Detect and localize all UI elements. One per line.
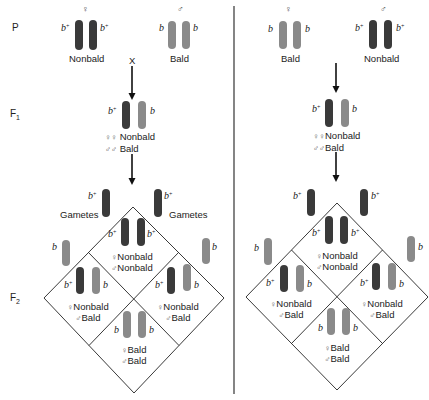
chromosome-dominant: [325, 99, 333, 127]
allele-label: b+: [312, 104, 320, 114]
allele-label: b+: [108, 229, 116, 239]
chromosome-recessive: [327, 308, 335, 335]
chromosome-recessive: [183, 264, 191, 291]
allele-label: b: [194, 280, 199, 290]
allele-label: b+: [100, 23, 108, 33]
allele-label: b: [254, 243, 259, 253]
allele-label: b: [150, 106, 155, 116]
allele-label: b: [305, 24, 310, 34]
allele-label: b: [353, 323, 358, 333]
generation-label-f2: F2: [10, 292, 20, 305]
allele-label: b+: [155, 280, 163, 290]
allele-label: b: [212, 242, 217, 252]
f2-cell-right-male: ♂Bald: [148, 312, 208, 324]
chromosome-dominant: [372, 263, 380, 290]
f2-cell-right-male: ♂Bald: [352, 309, 412, 321]
allele-label: b+: [360, 278, 368, 288]
allele-label: b+: [108, 106, 116, 116]
allele-label: b+: [351, 228, 359, 238]
allele-label: b+: [61, 23, 69, 33]
chromosome-dominant: [121, 218, 129, 246]
allele-label: b+: [147, 229, 155, 239]
f2-cell-bottom-male: ♂Bald: [104, 355, 164, 367]
f1-female-phenotype: ♀♀ Nonbald: [105, 131, 155, 143]
chromosome-dominant: [369, 20, 377, 49]
chromosome-recessive: [138, 311, 146, 338]
allele-label: b: [159, 23, 164, 33]
allele-label: b: [268, 24, 273, 34]
phenotype-label: Nonbald: [364, 53, 399, 64]
allele-label: b+: [312, 228, 320, 238]
allele-label: b+: [64, 280, 72, 290]
chromosome-recessive: [341, 99, 349, 127]
generation-label-p: P: [12, 22, 19, 33]
chromosome-recessive: [293, 21, 301, 49]
gamete-chromosome-recessive: [407, 236, 415, 262]
gamete-chromosome-recessive: [264, 238, 272, 265]
allele-label: b+: [88, 191, 96, 201]
female-symbol-icon: ♀: [285, 4, 292, 14]
phenotype-label: Nonbald: [69, 53, 104, 64]
allele-label: b+: [396, 23, 404, 33]
allele-label: b: [52, 242, 57, 252]
f1-female-phenotype: ♀♀Nonbald: [313, 130, 360, 142]
f2-cell-bottom-male: ♂Bald: [307, 353, 367, 365]
gamete-chromosome-dominant: [307, 189, 315, 216]
gamete-chromosome-dominant: [360, 189, 368, 216]
allele-label: b+: [293, 191, 301, 201]
chromosome-recessive: [296, 265, 304, 292]
chromosome-recessive: [388, 263, 396, 290]
male-symbol-icon: ♂: [177, 4, 184, 14]
allele-label: b: [318, 323, 323, 333]
chromosome-recessive: [182, 21, 190, 49]
chromosome-dominant: [76, 267, 84, 294]
chromosome-dominant: [340, 216, 348, 244]
f2-cell-left-male: ♂Bald: [58, 312, 118, 324]
generation-label-f1: F1: [10, 108, 20, 121]
f1-male-phenotype: ♂♂ Bald: [105, 143, 139, 155]
allele-label: b+: [266, 278, 274, 288]
chromosome-recessive: [138, 101, 146, 129]
chromosome-dominant: [137, 218, 145, 246]
f1-male-phenotype: ♂♂Bald: [313, 142, 344, 154]
f2-cell-top-male: ♂Nonbald: [102, 262, 162, 274]
chromosome-recessive: [279, 21, 287, 49]
f2-cell-left-male: ♂Bald: [261, 309, 321, 321]
phenotype-label: Bald: [281, 53, 300, 64]
chromosome-recessive: [168, 21, 176, 49]
allele-label: b: [193, 23, 198, 33]
chromosome-dominant: [280, 265, 288, 292]
chromosome-recessive: [123, 311, 131, 338]
cross-symbol: X: [129, 55, 135, 66]
allele-label: b+: [355, 23, 363, 33]
gametes-label: Gametes: [169, 209, 208, 220]
chromosome-dominant: [325, 216, 333, 244]
chromosome-dominant: [89, 20, 97, 50]
gamete-chromosome-dominant: [154, 189, 162, 217]
allele-label: b: [399, 279, 404, 289]
allele-label: b: [418, 242, 423, 252]
female-symbol-icon: ♀: [82, 4, 89, 14]
gametes-label: Gametes: [60, 209, 99, 220]
chromosome-recessive: [92, 267, 100, 294]
chromosome-dominant: [384, 20, 392, 49]
male-symbol-icon: ♂: [380, 4, 387, 14]
allele-label: b: [103, 280, 108, 290]
allele-label: b+: [371, 191, 379, 201]
allele-label: b: [149, 325, 154, 335]
gamete-chromosome-recessive: [62, 240, 70, 266]
chromosome-dominant: [122, 101, 130, 129]
gamete-chromosome-dominant: [102, 189, 110, 217]
allele-label: b+: [164, 191, 172, 201]
chromosome-recessive: [342, 308, 350, 335]
allele-label: b: [352, 104, 357, 114]
allele-label: b: [114, 325, 119, 335]
chromosome-dominant: [167, 267, 175, 294]
phenotype-label: Bald: [170, 53, 189, 64]
allele-label: b: [307, 279, 312, 289]
f2-cell-top-male: ♂Nonbald: [307, 261, 367, 273]
gamete-chromosome-recessive: [202, 238, 210, 264]
chromosome-dominant: [75, 20, 83, 50]
